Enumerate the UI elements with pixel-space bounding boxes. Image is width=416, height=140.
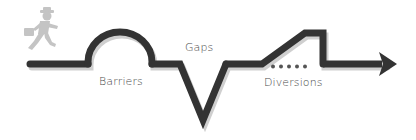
diversion-dot — [271, 65, 275, 69]
journey-diagram: Barriers Gaps Diversions — [0, 0, 416, 140]
diversion-dot — [279, 65, 283, 69]
label-diversions: Diversions — [264, 76, 323, 89]
gap-segment — [152, 64, 226, 120]
diversion-dot — [295, 65, 299, 69]
diversion-dot — [303, 65, 307, 69]
label-barriers: Barriers — [99, 75, 143, 88]
diversion-dots — [271, 65, 307, 69]
running-businessman-icon — [24, 7, 58, 50]
label-gaps: Gaps — [185, 41, 213, 54]
diversion-dot — [287, 65, 291, 69]
